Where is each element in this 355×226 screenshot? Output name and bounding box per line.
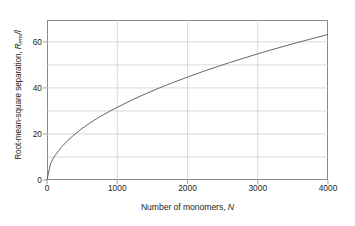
y-tick-label: 0 (20, 176, 42, 184)
x-tick-label: 4000 (306, 184, 350, 193)
gridlines (47, 20, 328, 180)
x-tick-label: 2000 (166, 184, 210, 193)
chart-figure: Root-mean-square separation, Rrms/l Numb… (0, 0, 355, 226)
x-tick-label: 1000 (95, 184, 139, 193)
axis-ticks (43, 42, 328, 184)
x-tick-label: 0 (25, 184, 69, 193)
x-tick-label: 3000 (236, 184, 280, 193)
y-tick-label: 20 (20, 130, 42, 138)
y-tick-label: 60 (20, 38, 42, 46)
y-tick-label: 40 (20, 84, 42, 92)
